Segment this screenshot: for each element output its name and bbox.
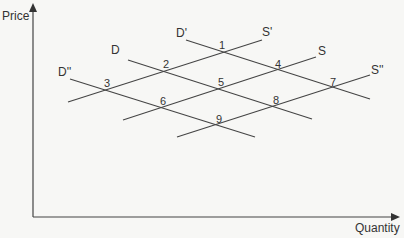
equilibrium-point-label: 6	[160, 96, 166, 107]
curve-label: D	[111, 44, 120, 56]
equilibrium-point-label: 2	[163, 59, 169, 70]
y-axis-label: Price	[2, 10, 29, 22]
x-axis-arrow-icon	[391, 213, 400, 221]
equilibrium-point-label: 9	[216, 114, 222, 125]
curve-label: D'	[176, 27, 187, 39]
y-axis-arrow-icon	[29, 3, 37, 12]
curve-label: S''	[371, 64, 384, 76]
equilibrium-point-label: 7	[330, 77, 336, 88]
equilibrium-point-label: 5	[218, 77, 224, 88]
equilibrium-point-label: 1	[219, 40, 225, 51]
diagram-canvas	[0, 0, 404, 238]
curve-label: S	[318, 45, 326, 57]
x-axis-label: Quantity	[355, 222, 400, 234]
supply-curve	[68, 40, 262, 102]
curve-label: D''	[58, 66, 71, 78]
equilibrium-point-label: 3	[104, 78, 110, 89]
supply-curve	[177, 75, 370, 137]
curve-label: S'	[262, 26, 272, 38]
equilibrium-point-label: 4	[275, 59, 281, 70]
demand-curve	[70, 79, 255, 137]
demand-curve	[128, 60, 312, 119]
equilibrium-point-label: 8	[273, 95, 279, 106]
